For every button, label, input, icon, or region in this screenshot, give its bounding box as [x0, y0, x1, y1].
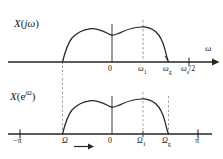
top-tick-label-omega-1: ω1 — [138, 65, 147, 75]
bottom-tick-label-Omega-g: Ωg — [162, 137, 171, 147]
top-tick-label-omega-g: ωg — [163, 65, 172, 75]
bottom-spectrum-curve — [63, 99, 169, 134]
bottom-tick-label-pi: π — [195, 137, 199, 145]
top-function-label: X(jω) — [14, 18, 39, 29]
figure-container: X(jω) ω 0 ω1 ωg ωs/2 X(ejΩ) −π Ω 0 Ω1 Ωg… — [0, 0, 223, 159]
bottom-tick-label-minus-pi: −π — [13, 137, 22, 145]
bottom-tick-label-Omega-1: Ω1 — [137, 137, 146, 147]
bottom-tick-label-origin: 0 — [108, 137, 112, 145]
top-tick-label-origin: 0 — [108, 65, 112, 73]
bottom-function-label: X(ejΩ) — [10, 90, 35, 102]
top-tick-label-omega-s-half: ωs/2 — [181, 65, 195, 75]
top-axis-arrowhead — [212, 59, 220, 66]
top-axis-label: ω — [205, 44, 211, 53]
Omega-direction-arrow — [74, 144, 94, 150]
bottom-arrow-label-Omega: Ω — [62, 137, 68, 145]
top-spectrum-curve — [63, 27, 169, 62]
